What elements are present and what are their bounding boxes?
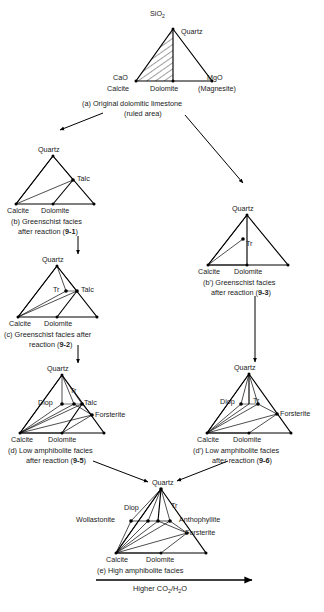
diagram-b-phase-dot-talc	[71, 178, 75, 182]
diagram-a-base-mid-mineral-label: Dolomite	[150, 84, 178, 93]
diagram-c-vertex-dot-right	[96, 316, 99, 319]
diagram-dprime-tie-forsterite-dolomite	[249, 414, 277, 433]
diagram-dprime-tie-calcite-mid	[207, 404, 249, 433]
diagram-dprime-tie-calcite-tr	[207, 404, 258, 433]
diagram-dprime-caption-line2: after reaction (9-6)	[212, 456, 272, 465]
diagram-dprime-interior-label-tr: Tr	[253, 396, 260, 405]
diagram-e-interior-label-forsterite: Forsterite	[185, 528, 215, 537]
diagram-e-tie-calcite-mid	[116, 521, 158, 553]
diagram-b-caption-line2: after reaction (9-1)	[18, 227, 78, 236]
diagram-a-caption-line1: (a) Original dolomitic limestone	[82, 99, 182, 108]
diagram-dprime-reaction-ref: 9-6	[259, 456, 270, 465]
diagram-b-talc-dolomite-line	[53, 180, 73, 204]
diagram-d-interior-label-tr: Tr	[70, 386, 77, 395]
diagram-b-reaction-ref: 9-1	[65, 227, 76, 236]
diagram-b-caption-line1: (b) Greenschist facies	[11, 217, 82, 226]
diagram-e-phase-dot-anthophyllite	[168, 519, 172, 523]
diagram-d-tie-calcite-tr	[20, 404, 74, 433]
diagram-d-phase-dot-diop	[60, 402, 64, 406]
diagram-dprime-group	[206, 373, 293, 435]
diagram-c-interior-label-tr: Tr	[53, 285, 60, 294]
diagram-d-phase-dot-forsterite	[90, 413, 94, 417]
diagram-a-vertex-dot-dolomite	[172, 80, 175, 83]
diagram-d-reaction-ref: 9-5	[73, 456, 84, 465]
diagram-b-base-mid-label: Dolomite	[41, 206, 69, 215]
diagram-c-base-mid-label: Dolomite	[44, 319, 72, 328]
diagram-e-caption-line1: (e) High amphibolite facies	[97, 566, 183, 575]
diagram-bprime-vertex-dot-quartz	[246, 214, 249, 217]
diagram-d-interior-label-talc: Talc	[84, 398, 97, 407]
diagram-d-left-label: Calcite	[11, 435, 33, 444]
diagram-bprime-reaction-ref: 9-3	[258, 288, 269, 297]
diagram-d-vertex-dot-quartz	[61, 374, 64, 377]
diagram-e-vertex-dot-right	[205, 552, 208, 555]
diagram-e-interior-label-tr: Tr	[171, 501, 178, 510]
diagram-e-tie-quartz-tr	[161, 489, 170, 521]
diagram-dprime-tie-quartz-diop	[241, 374, 249, 404]
bottom-axis-label: Higher CO2/H2O	[133, 584, 187, 594]
diagram-c-talc-dolomite-line	[57, 291, 77, 317]
diagram-c-caption-line2: reaction (9-2)	[29, 340, 72, 349]
diagram-e-left-label: Calcite	[106, 555, 128, 564]
diagram-d-tie-calcite-talc	[20, 404, 82, 433]
diagram-dprime-interior-label-forsterite: Forsterite	[280, 409, 310, 418]
diagram-a-apex-formula-subscript: 2	[162, 13, 165, 19]
diagram-b-interior-label-talc: Talc	[77, 174, 90, 183]
diagram-a-vertex-dot-calcite	[135, 80, 138, 83]
flow-arrows-group	[60, 113, 255, 580]
diagram-e-phase-dot-mid	[156, 519, 160, 523]
diagram-a-right-formula-label: MgO	[207, 73, 223, 82]
diagram-a-vertex-dot-quartz	[172, 28, 175, 31]
diagram-bprime-left-label: Calcite	[198, 267, 220, 276]
diagram-d-base-mid-label: Dolomite	[48, 435, 76, 444]
diagram-e-base-mid-label: Dolomite	[146, 555, 174, 564]
diagram-dprime-base-mid-label: Dolomite	[233, 435, 261, 444]
diagram-d-caption-line2: after reaction (9-5)	[26, 456, 86, 465]
diagram-d-phase-dot-tr	[72, 402, 76, 406]
flow-arrow-d-to-e	[93, 461, 148, 482]
diagram-e-apex-center-line	[158, 489, 161, 521]
diagram-d-apex-label: Quartz	[47, 364, 69, 373]
diagram-d-tie-calcite-diop	[20, 404, 62, 433]
diagram-b-tie-talc-quartz	[53, 156, 73, 180]
diagram-a-right-mineral-label: (Magnesite)	[198, 84, 236, 93]
diagram-bprime-interior-label-tr: Tr	[246, 239, 253, 248]
diagram-c-tie-talc-calcite	[18, 291, 77, 317]
diagram-bprime-phase-dot-tr	[241, 237, 245, 241]
diagram-b-vertex-dot-quartz	[52, 155, 55, 158]
diagram-b-tie-quartz-calcite	[16, 156, 53, 204]
diagram-b-left-label: Calcite	[7, 206, 29, 215]
diagram-b-vertex-dot-right	[93, 203, 96, 206]
diagram-d-caption-line1: (d) Low amphibolite facies	[8, 446, 93, 455]
diagram-a-left-formula-label: CaO	[113, 73, 128, 82]
diagram-dprime-tie-calcite-forsterite	[207, 414, 277, 433]
diagram-dprime-interior-label-diop: Diop	[220, 397, 235, 406]
diagram-c-phase-dot-talc	[75, 289, 79, 293]
diagram-b-apex-label: Quartz	[38, 145, 60, 154]
diagram-c-vertex-dot-quartz	[56, 265, 59, 268]
diagram-e-apex-label: Quartz	[152, 478, 174, 487]
diagram-e-phase-dot-diop	[146, 519, 150, 523]
diagram-a-apex-mineral-label: Quartz	[181, 27, 203, 36]
diagram-bprime-base-mid-label: Dolomite	[234, 267, 262, 276]
diagram-e-phase-dot-wollastonite	[129, 519, 133, 523]
diagram-dprime-apex-label: Quartz	[234, 363, 256, 372]
diagram-a-left-mineral-label: Calcite	[107, 84, 129, 93]
diagram-bprime-caption-line1: (b') Greenschist facies	[203, 278, 275, 287]
diagram-bprime-apex-label: Quartz	[232, 204, 254, 213]
diagram-e-tie-forsterite-dolomite	[161, 533, 187, 553]
diagram-c-phase-dot-tr	[64, 289, 68, 293]
diagram-dprime-phase-dot-forsterite	[275, 412, 279, 416]
diagram-e-interior-label-diop: Diop	[124, 503, 139, 512]
diagram-c-interior-label-talc: Talc	[81, 285, 94, 294]
diagram-c-tie-quartz-calcite	[18, 266, 57, 317]
diagram-d-interior-label-diop: Diop	[38, 398, 53, 407]
flow-arrow-a-to-bprime	[185, 115, 243, 183]
diagram-c-reaction-ref: 9-2	[59, 340, 70, 349]
diagram-a-apex-formula-label: SiO2	[150, 9, 165, 19]
diagram-d-tie-forsterite-dolomite	[62, 415, 92, 433]
diagram-d-interior-label-forsterite: Forsterite	[95, 410, 125, 419]
diagram-e-vertex-dot-quartz	[159, 487, 163, 491]
diagram-dprime-vertex-dot-right	[290, 432, 293, 435]
diagram-c-caption-line1: (c) Greenschist facies after	[4, 330, 91, 339]
